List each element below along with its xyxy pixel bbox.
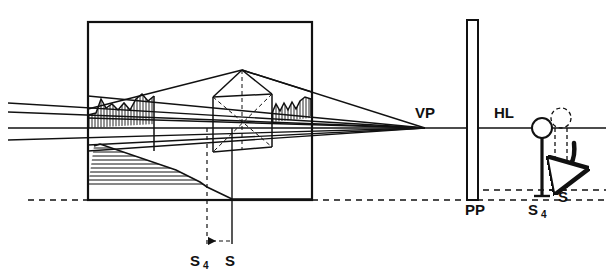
sight-line-1 (8, 103, 425, 128)
sight-line-5 (88, 128, 425, 151)
label-vp: VP (415, 104, 435, 121)
label-s-plan: S (225, 252, 235, 269)
label-hl: HL (494, 104, 514, 121)
observer-figure (532, 108, 574, 196)
sight-lines (8, 70, 425, 151)
label-s4-elevation: S (528, 201, 538, 218)
lower-hatched-wedge (86, 144, 312, 200)
observer-ghost (549, 108, 571, 190)
label-pp: PP (465, 201, 485, 218)
label-s4-elevation-subscript: 4 (541, 209, 547, 220)
label-s4-plan: S (190, 252, 200, 269)
ground-line-dashed (28, 190, 606, 200)
observer-solid (532, 118, 552, 196)
diagram-canvas: VP HL PP S 4 S S 4 S (0, 0, 614, 277)
ridge-right-fall (242, 70, 312, 92)
label-s-elevation: S (558, 188, 568, 205)
picture-plane-bar (467, 20, 478, 200)
perspective-diagram: VP HL PP S 4 S S 4 S (0, 0, 614, 277)
label-s4-plan-subscript: 4 (203, 260, 209, 271)
shift-arrow (554, 143, 574, 175)
